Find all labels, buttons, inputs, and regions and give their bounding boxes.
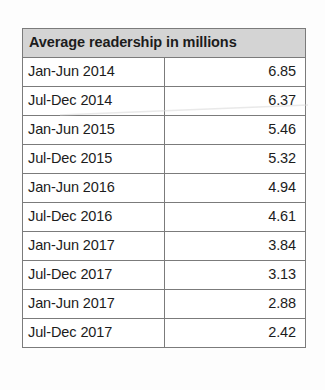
table-row: Jul-Dec 2017 3.13	[23, 261, 306, 290]
period-label: Jan-Jun 2014	[23, 58, 165, 87]
readership-value: 3.13	[164, 261, 306, 290]
table-row: Jan-Jun 2017 2.88	[23, 290, 306, 319]
period-label: Jan-Jun 2017	[23, 290, 165, 319]
table-row: Jan-Jun 2015 5.46	[23, 116, 306, 145]
readership-value: 2.88	[164, 290, 306, 319]
readership-table-container: Average readership in millions Jan-Jun 2…	[22, 28, 306, 348]
readership-value: 4.94	[164, 174, 306, 203]
readership-value: 3.84	[164, 232, 306, 261]
table-title-header: Average readership in millions	[23, 29, 306, 58]
table-row: Jul-Dec 2014 6.37	[23, 87, 306, 116]
readership-value: 6.85	[164, 58, 306, 87]
period-label: Jan-Jun 2016	[23, 174, 165, 203]
readership-value: 5.32	[164, 145, 306, 174]
period-label: Jul-Dec 2015	[23, 145, 165, 174]
table-row: Jan-Jun 2016 4.94	[23, 174, 306, 203]
table-row: Jan-Jun 2014 6.85	[23, 58, 306, 87]
period-label: Jul-Dec 2017	[23, 319, 165, 348]
table-row: Jul-Dec 2016 4.61	[23, 203, 306, 232]
table-header-row: Average readership in millions	[23, 29, 306, 58]
period-label: Jul-Dec 2014	[23, 87, 165, 116]
readership-value: 5.46	[164, 116, 306, 145]
table-body: Jan-Jun 2014 6.85 Jul-Dec 2014 6.37 Jan-…	[23, 58, 306, 348]
period-label: Jul-Dec 2017	[23, 261, 165, 290]
readership-value: 2.42	[164, 319, 306, 348]
readership-value: 6.37	[164, 87, 306, 116]
period-label: Jan-Jun 2017	[23, 232, 165, 261]
period-label: Jan-Jun 2015	[23, 116, 165, 145]
readership-value: 4.61	[164, 203, 306, 232]
table-head: Average readership in millions	[23, 29, 306, 58]
table-row: Jul-Dec 2015 5.32	[23, 145, 306, 174]
table-row: Jan-Jun 2017 3.84	[23, 232, 306, 261]
table-row: Jul-Dec 2017 2.42	[23, 319, 306, 348]
readership-table: Average readership in millions Jan-Jun 2…	[22, 28, 306, 348]
period-label: Jul-Dec 2016	[23, 203, 165, 232]
